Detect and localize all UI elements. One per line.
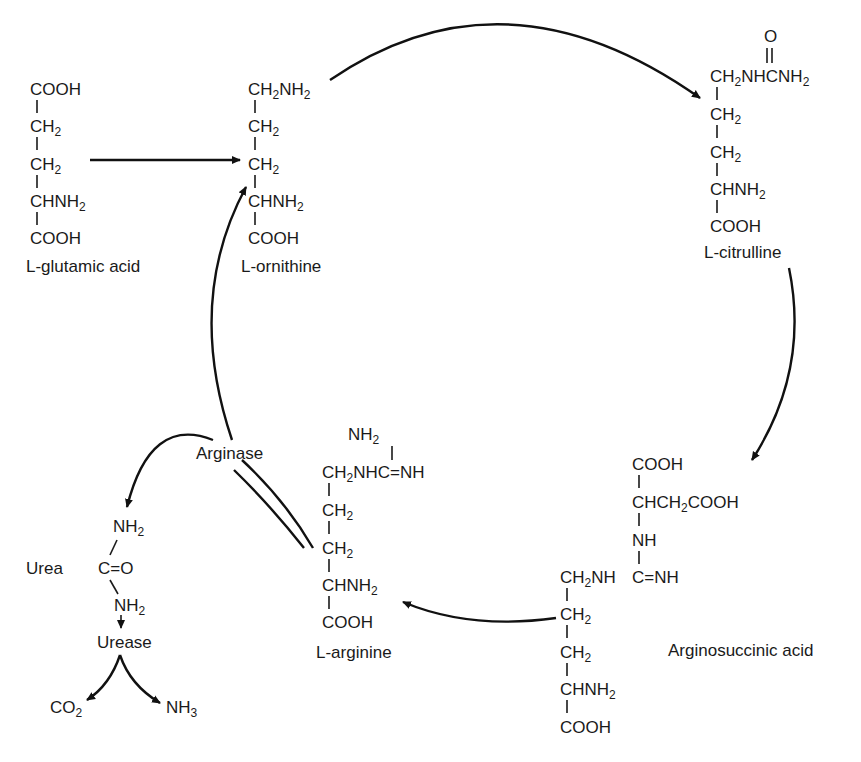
citrulline-line-5: COOH [710, 217, 761, 236]
urea-carbonyl: C=O [98, 559, 133, 578]
diagram-canvas: COOH CH2 CH2 CHNH2 COOH L-glutamic acid … [0, 0, 861, 762]
compound-urea: Urea NH2 C=O NH2 [26, 517, 146, 618]
arginine-amino-top: NH2 [348, 425, 380, 447]
ornithine-label: L-ornithine [241, 257, 321, 276]
citrulline-line-3: CH2 [710, 143, 742, 165]
citrulline-label: L-citrulline [704, 243, 781, 262]
arrow-arginine-to-arginase [242, 460, 313, 548]
arrow-ornithine-to-citrulline [330, 24, 700, 98]
ornithine-line-4: CHNH2 [248, 192, 304, 214]
arginosuccinate-line-3: CH2 [560, 643, 592, 665]
compound-arginosuccinic-acid: COOH CHCH2COOH NH C=NH CH2NH CH2 CH2 CHN… [560, 455, 814, 737]
arrow-arginine-to-arginase-secondary [234, 470, 304, 548]
citrulline-line-1: CH2NHCNH2 [710, 67, 810, 89]
compound-arginine: NH2 CH2NHC=NH CH2 CH2 CHNH2 COOH L-argin… [316, 425, 425, 662]
compound-glutamic-acid: COOH CH2 CH2 CHNH2 COOH L-glutamic acid [26, 80, 140, 276]
co2-product: CO2 [50, 698, 83, 720]
ornithine-line-1: CH2NH2 [248, 80, 311, 102]
glutamic-line-4: CHNH2 [30, 192, 86, 214]
arginine-line-3: CH2 [322, 539, 354, 561]
nh3-product: NH3 [166, 698, 198, 720]
glutamic-line-1: COOH [30, 80, 81, 99]
urea-label: Urea [26, 559, 63, 578]
arginosuccinate-line-5: COOH [560, 718, 611, 737]
arrow-arginosuccinate-to-arginine [403, 602, 556, 622]
urea-bottom-amine: NH2 [114, 596, 146, 618]
arginosuccinate-succinyl-line-2: CHCH2COOH [632, 493, 739, 515]
glutamic-line-5: COOH [30, 229, 81, 248]
arginine-label: L-arginine [316, 643, 392, 662]
arginosuccinate-line-4: CHNH2 [560, 680, 616, 702]
arrow-citrulline-to-arginosuccinate [752, 268, 795, 460]
arginosuccinate-guanidino: C=NH [632, 568, 679, 587]
arrow-urease-to-nh3 [120, 655, 160, 703]
ornithine-line-3: CH2 [248, 155, 280, 177]
urea-top-amine: NH2 [113, 517, 145, 539]
arginine-line-4: CHNH2 [322, 576, 378, 598]
glutamic-line-2: CH2 [30, 117, 62, 139]
arrow-urease-to-co2 [87, 655, 120, 700]
arginine-line-2: CH2 [322, 501, 354, 523]
citrulline-carbonyl-oxygen: O [764, 27, 777, 46]
citrulline-line-4: CHNH2 [710, 180, 766, 202]
compound-citrulline: O CH2NHCNH2 CH2 CH2 CHNH2 COOH L-citrull… [704, 27, 810, 262]
arginine-line-1: CH2NHC=NH [322, 463, 425, 485]
glutamic-line-3: CH2 [30, 155, 62, 177]
arginosuccinate-succinyl-line-3: NH [632, 531, 657, 550]
compound-ornithine: CH2NH2 CH2 CH2 CHNH2 COOH L-ornithine [241, 80, 321, 276]
glutamic-acid-label: L-glutamic acid [26, 257, 140, 276]
arginosuccinate-succinyl-line-1: COOH [632, 455, 683, 474]
urea-cycle-diagram: COOH CH2 CH2 CHNH2 COOH L-glutamic acid … [0, 0, 861, 762]
arginase-enzyme-label: Arginase [196, 444, 263, 463]
arginosuccinate-line-1: CH2NH [560, 568, 616, 590]
citrulline-line-2: CH2 [710, 105, 742, 127]
ornithine-line-2: CH2 [248, 117, 280, 139]
arginine-line-5: COOH [322, 613, 373, 632]
arrow-arginase-to-ornithine [212, 187, 246, 440]
ornithine-line-5: COOH [248, 229, 299, 248]
arginosuccinic-acid-label: Arginosuccinic acid [668, 641, 814, 660]
urease-enzyme-label: Urease [97, 633, 152, 652]
arginosuccinate-line-2: CH2 [560, 605, 592, 627]
